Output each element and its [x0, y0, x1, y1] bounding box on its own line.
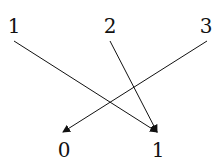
edge-2-to-1 — [110, 41, 157, 132]
bottom-node-0: 0 — [58, 140, 71, 160]
top-node-1: 1 — [8, 16, 21, 36]
mapping-diagram: 1 2 3 0 1 — [0, 0, 224, 162]
top-node-3: 3 — [200, 16, 213, 36]
top-node-2: 2 — [104, 16, 117, 36]
bottom-node-1: 1 — [152, 140, 165, 160]
